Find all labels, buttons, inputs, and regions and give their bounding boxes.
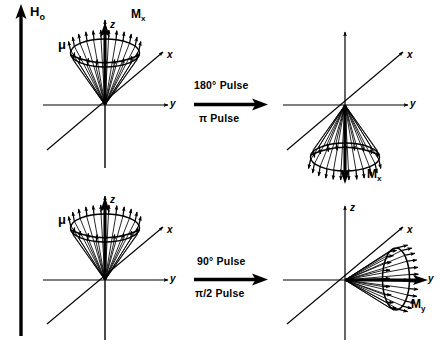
axis-label-y-bottom-left: y xyxy=(170,274,176,284)
transition-arrow-bottom xyxy=(194,274,268,286)
axis-label-x-top-right: x xyxy=(407,50,413,60)
axis-label-z-bottom-right: z xyxy=(350,203,355,213)
axis-label-z-top-left: z xyxy=(110,20,115,30)
magnetization-label-bottom-right: My xyxy=(411,298,425,313)
pulse-label-pi: π Pulse xyxy=(199,113,239,124)
axis-label-x-bottom-right: x xyxy=(407,225,413,235)
mu-label-bottom-left: μ xyxy=(58,213,66,226)
h0-field-arrow xyxy=(16,4,27,336)
pulse-label-90-degrees: 90° Pulse xyxy=(197,256,246,267)
magnetization-label-top-right: Mx xyxy=(367,168,381,183)
axis-label-y-top-left: y xyxy=(170,99,176,109)
mu-label-top-left: μ xyxy=(58,38,66,51)
pulse-label-pi-over-2: π/2 Pulse xyxy=(195,288,245,299)
axis-label-y-top-right: y xyxy=(410,99,416,109)
panel-top-right xyxy=(283,32,408,184)
cone-top-left xyxy=(69,22,141,105)
pulse-label-180-degrees: 180° Pulse xyxy=(194,80,249,91)
h0-field-label: Ho xyxy=(30,5,45,22)
axis-label-x-top-left: x xyxy=(167,50,173,60)
cone-bottom-left xyxy=(69,197,141,280)
axes-bottom-right xyxy=(283,206,408,340)
magnetization-label-top-left: Mx xyxy=(131,8,145,23)
axis-label-y-bottom-right: y xyxy=(428,274,434,284)
axis-label-z-bottom-left: z xyxy=(110,195,115,205)
transition-arrow-top xyxy=(194,99,268,111)
axis-label-x-bottom-left: x xyxy=(167,225,173,235)
figure-canvas: Ho z x y μ Mx x y Mx z x y μ z x y My 18… xyxy=(0,0,443,347)
